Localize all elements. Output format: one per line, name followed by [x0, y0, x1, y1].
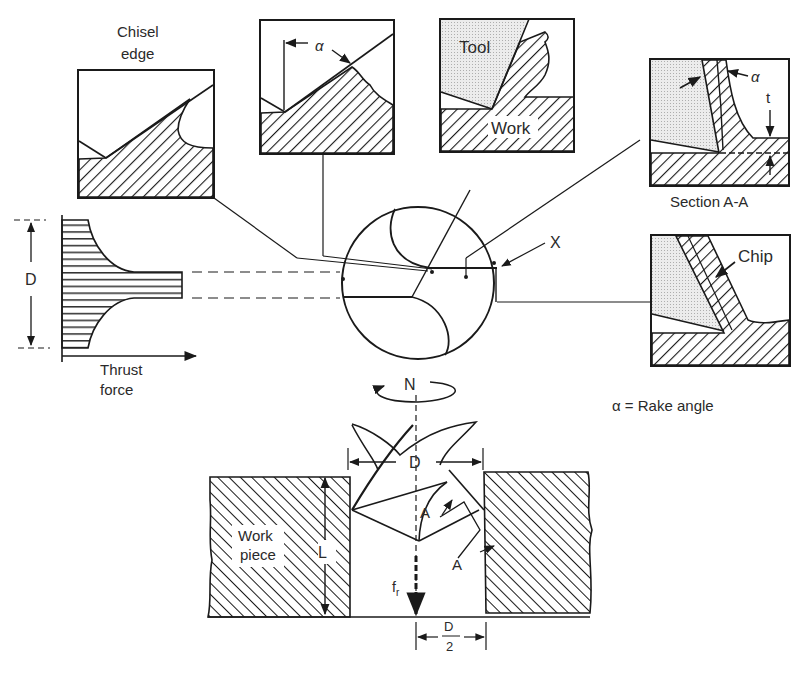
rake-angle-legend: α = Rake angle	[612, 397, 714, 414]
alpha-section-label: α	[751, 68, 760, 85]
tool-work-inset: Work Tool	[440, 19, 574, 152]
drilling-side-view: Work piece L fr D A A	[208, 395, 592, 654]
half-diameter-num: D	[444, 619, 453, 634]
half-diameter-den: 2	[446, 639, 453, 654]
rotation-indicator: N α = Rake angle	[377, 376, 714, 414]
alpha-label: α	[315, 37, 324, 54]
diameter-label: D	[409, 454, 421, 471]
chisel-edge-inset: Chisel edge	[78, 23, 214, 198]
rake-angle-inset: α	[260, 20, 394, 154]
feed-force-label: fr	[392, 579, 400, 598]
chisel-edge-label: Chisel	[117, 23, 159, 40]
diagram-svg: Chisel edge α Work Tool α	[0, 0, 799, 676]
x-marker-label: X	[550, 234, 561, 251]
section-aa-inset: α t Section A-A	[650, 59, 789, 210]
diameter-label-thrust: D	[25, 271, 37, 288]
workpiece-label: Work	[238, 527, 273, 544]
chip-label: Chip	[738, 247, 773, 266]
force-label: force	[100, 381, 133, 398]
section-a-upper-label: A	[420, 504, 430, 521]
thrust-force-plot: D Thrust force	[14, 215, 340, 398]
work-label: Work	[491, 119, 531, 138]
section-aa-label: Section A-A	[670, 193, 748, 210]
chisel-edge-label-2: edge	[121, 45, 154, 62]
workpiece-label-2: piece	[240, 546, 276, 563]
drilling-diagram: Chisel edge α Work Tool α	[0, 0, 799, 676]
tool-label: Tool	[459, 38, 490, 57]
chip-inset: Chip	[651, 235, 790, 366]
drill-end-view: X	[341, 140, 640, 359]
depth-l-label: L	[318, 544, 327, 561]
thrust-label: Thrust	[100, 361, 143, 378]
rotation-n-label: N	[404, 376, 416, 393]
section-a-lower-label: A	[452, 556, 462, 573]
